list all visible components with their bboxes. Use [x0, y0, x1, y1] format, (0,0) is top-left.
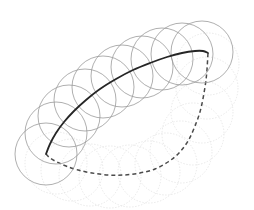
figure-container [0, 0, 254, 210]
figure-background [0, 0, 254, 210]
curve-circles-diagram [0, 0, 254, 210]
